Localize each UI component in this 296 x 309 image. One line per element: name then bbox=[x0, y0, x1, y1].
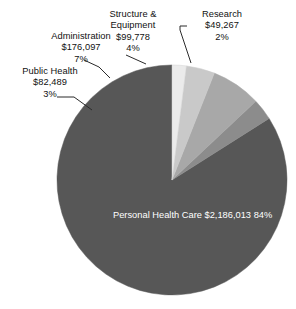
slice-label-structure-and-equipment-name-line1: Structure & bbox=[100, 9, 166, 20]
slice-label-research: Research $49,267 2% bbox=[186, 9, 258, 43]
slice-label-public-health: Public Health $82,489 3% bbox=[8, 66, 92, 100]
slice-label-structure-and-equipment-name-line2: Equipment bbox=[100, 20, 166, 31]
slice-label-personal-health-care: Personal Health Care $2,186,013 84% bbox=[113, 210, 209, 221]
pie-chart: Public Health $82,489 3% Administration … bbox=[0, 0, 296, 309]
leader-line-structure-and-equipment bbox=[126, 55, 146, 64]
slice-label-administration-percent: 7% bbox=[36, 54, 126, 65]
slice-label-structure-and-equipment: Structure & Equipment $99,778 4% bbox=[100, 9, 166, 55]
slice-label-structure-and-equipment-value: $99,778 bbox=[100, 32, 166, 43]
slice-label-public-health-name: Public Health bbox=[8, 66, 92, 77]
slice-label-personal-health-care-value: $2,186,013 bbox=[205, 210, 252, 220]
slice-label-personal-health-care-name-line1: Personal Health bbox=[113, 210, 179, 220]
slice-label-structure-and-equipment-percent: 4% bbox=[100, 43, 166, 54]
slice-label-research-value: $49,267 bbox=[186, 20, 258, 31]
slice-label-public-health-percent: 3% bbox=[8, 89, 92, 100]
slice-label-personal-health-care-name-line2: Care bbox=[182, 210, 202, 220]
slice-label-research-name: Research bbox=[186, 9, 258, 20]
slice-label-personal-health-care-percent: 84% bbox=[254, 210, 273, 220]
slice-label-public-health-value: $82,489 bbox=[8, 77, 92, 88]
slice-label-research-percent: 2% bbox=[186, 32, 258, 43]
